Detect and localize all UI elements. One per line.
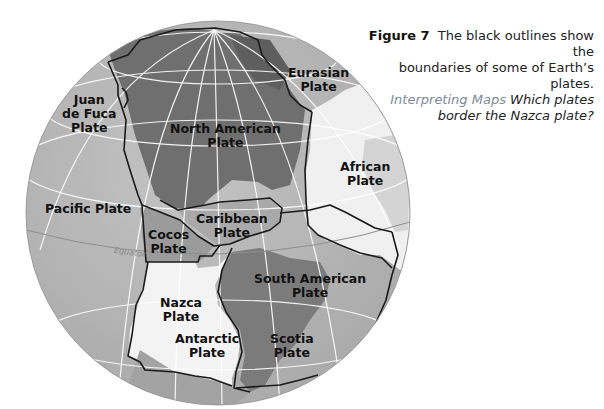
label-line: Nazca: [160, 296, 202, 310]
plate-label-cocos: Cocos Plate: [148, 228, 189, 256]
label-line: South American: [254, 272, 366, 286]
plate-label-african: African Plate: [340, 160, 390, 188]
label-line: Plate: [160, 310, 202, 324]
figure-caption: Figure 7 The black outlines show the bou…: [358, 28, 594, 124]
label-line: Plate: [288, 80, 349, 94]
label-line: African: [340, 160, 390, 174]
plate-label-nazca: Nazca Plate: [160, 296, 202, 324]
label-line: de Fuca: [62, 107, 116, 121]
label-line: Plate: [254, 286, 366, 300]
label-line: Antarctic: [175, 332, 239, 346]
label-line: Plate: [340, 174, 390, 188]
plate-label-scotia: Scotia Plate: [270, 332, 314, 360]
plate-label-north-american: North American Plate: [170, 122, 281, 150]
label-line: Plate: [270, 346, 314, 360]
label-line: Scotia: [270, 332, 314, 346]
label-line: Plate: [175, 346, 239, 360]
label-line: Plate: [170, 136, 281, 150]
label-line: North American: [170, 122, 281, 136]
skill-label: Interpreting Maps: [390, 92, 506, 107]
plate-label-pacific: Pacific Plate: [45, 202, 131, 216]
plate-label-antarctic: Antarctic Plate: [175, 332, 239, 360]
label-line: Eurasian: [288, 66, 349, 80]
label-line: Cocos: [148, 228, 189, 242]
plate-label-juan-de-fuca: Juan de Fuca Plate: [62, 93, 116, 135]
question-part-1: Which plates: [510, 92, 594, 107]
plate-label-south-american: South American Plate: [254, 272, 366, 300]
label-line: Juan: [62, 93, 116, 107]
label-line: Pacific Plate: [45, 202, 131, 216]
plate-label-caribbean: Caribbean Plate: [196, 212, 268, 240]
label-line: Plate: [196, 226, 268, 240]
caption-line-3: Interpreting Maps Which plates: [358, 92, 594, 108]
caption-line-4: border the Nazca plate?: [358, 108, 594, 124]
label-line: Plate: [62, 121, 116, 135]
caption-line-1: The black outlines show the: [438, 28, 594, 59]
label-line: Caribbean: [196, 212, 268, 226]
plate-label-eurasian: Eurasian Plate: [288, 66, 349, 94]
figure-label: Figure 7: [369, 28, 430, 43]
label-line: Plate: [148, 242, 189, 256]
caption-line-2: boundaries of some of Earth’s plates.: [358, 60, 594, 92]
